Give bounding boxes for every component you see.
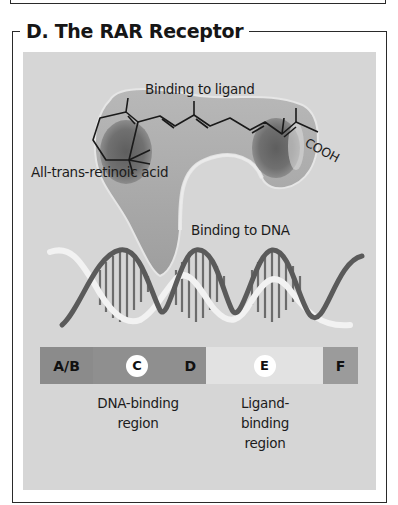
binding-to-ligand-label: Binding to ligand [145, 81, 255, 97]
receptor-illustration [0, 0, 398, 505]
domain-e-label: E [254, 355, 276, 377]
receptor-domain-bar: A/B C D E F [40, 347, 358, 384]
domain-e: E [206, 347, 323, 384]
retinoic-acid-label: All-trans-retinoic acid [31, 164, 168, 180]
domain-cd: C D [93, 347, 206, 384]
domain-f-label: F [336, 358, 346, 374]
domain-f: F [323, 347, 358, 384]
domain-ab: A/B [40, 347, 93, 384]
domain-c-label: C [126, 355, 148, 377]
domain-d-label: D [184, 358, 196, 374]
dna-light-strand [50, 250, 350, 325]
dna-helix [50, 250, 362, 326]
binding-to-dna-label: Binding to DNA [191, 222, 290, 238]
dna-binding-region-label: DNA-binding region [88, 393, 188, 433]
domain-ab-label: A/B [53, 358, 80, 374]
ligand-binding-region-label: Ligand- binding region [220, 393, 310, 453]
